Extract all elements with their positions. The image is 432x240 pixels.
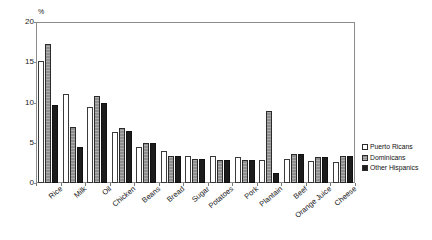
x-tick-mark xyxy=(355,183,356,186)
bar xyxy=(217,160,223,183)
bar xyxy=(63,94,69,183)
x-tick-label: Oil xyxy=(101,185,113,197)
bar xyxy=(199,159,205,183)
bar xyxy=(87,107,93,183)
bar-group xyxy=(134,22,159,183)
chart-legend: Puerto RicansDominicansOther Hispanics xyxy=(362,142,418,174)
bar-group xyxy=(61,22,86,183)
legend-swatch-black xyxy=(362,165,368,171)
bar xyxy=(235,157,241,183)
bar xyxy=(210,156,216,183)
bar xyxy=(192,159,198,183)
x-tick-label: Beef xyxy=(292,185,309,201)
bar-group xyxy=(281,22,306,183)
x-tick-label: Milk xyxy=(73,185,88,199)
bar xyxy=(175,156,181,183)
bar-group xyxy=(159,22,184,183)
bar xyxy=(119,128,125,183)
x-tick-label: Pork xyxy=(243,185,260,201)
legend-item: Other Hispanics xyxy=(362,163,418,174)
bar xyxy=(224,160,230,183)
bar xyxy=(333,162,339,183)
legend-label: Puerto Ricans xyxy=(370,142,413,153)
bar-group xyxy=(183,22,208,183)
bar xyxy=(249,160,255,183)
bars-layer xyxy=(36,22,355,183)
legend-item: Puerto Ricans xyxy=(362,142,418,153)
bar xyxy=(347,156,353,183)
bar-group xyxy=(208,22,233,183)
bar xyxy=(38,61,44,183)
bar xyxy=(259,160,265,183)
bar xyxy=(284,159,290,183)
bar xyxy=(143,143,149,183)
bar xyxy=(266,111,272,183)
bar-group xyxy=(257,22,282,183)
bar xyxy=(150,143,156,183)
bar xyxy=(315,157,321,183)
bar xyxy=(242,160,248,183)
x-tick-label: Beans xyxy=(140,185,161,204)
bar xyxy=(94,96,100,183)
bar xyxy=(77,147,83,183)
bar-group xyxy=(85,22,110,183)
x-tick-label: Plantain xyxy=(259,185,285,208)
bar xyxy=(45,44,51,183)
y-axis: 05101520 xyxy=(0,0,34,240)
y-tick-label: 5 xyxy=(0,139,34,147)
bar xyxy=(298,154,304,183)
x-tick-label: Potatoes xyxy=(208,185,236,210)
y-tick-label: 15 xyxy=(0,58,34,66)
y-tick-label: 10 xyxy=(0,99,34,107)
legend-item: Dominicans xyxy=(362,153,418,164)
bar-chart: % 05101520 RiceMilkOilChickenBeansBreadS… xyxy=(0,0,432,240)
bar xyxy=(322,157,328,183)
bar xyxy=(340,156,346,183)
bar xyxy=(168,156,174,183)
bar xyxy=(101,103,107,184)
bar xyxy=(308,161,314,183)
bar xyxy=(136,147,142,183)
y-tick-label: 0 xyxy=(0,179,34,187)
legend-label: Other Hispanics xyxy=(370,163,418,174)
bar xyxy=(52,105,58,183)
bar xyxy=(291,154,297,183)
bar-group xyxy=(306,22,331,183)
bar-group xyxy=(110,22,135,183)
x-tick-label: Bread xyxy=(166,185,186,204)
bar xyxy=(273,173,279,183)
bar-group xyxy=(330,22,355,183)
bar xyxy=(185,156,191,183)
legend-swatch-gray xyxy=(362,155,368,161)
x-axis-labels: RiceMilkOilChickenBeansBreadSugarPotatoe… xyxy=(36,185,355,240)
bar-group xyxy=(36,22,61,183)
y-axis-unit-label: % xyxy=(38,8,44,15)
x-tick-label: Rice xyxy=(47,185,63,200)
bar xyxy=(112,132,118,183)
x-tick-label: Chicken xyxy=(111,185,137,208)
bar xyxy=(161,151,167,183)
bar xyxy=(126,131,132,183)
legend-swatch-white xyxy=(362,144,368,150)
x-tick-label: Cheese xyxy=(333,185,358,207)
legend-label: Dominicans xyxy=(370,153,406,164)
bar-group xyxy=(232,22,257,183)
bar xyxy=(70,127,76,183)
y-tick-label: 20 xyxy=(0,18,34,26)
